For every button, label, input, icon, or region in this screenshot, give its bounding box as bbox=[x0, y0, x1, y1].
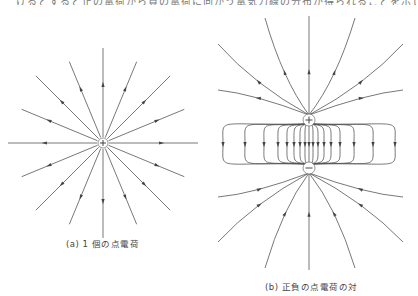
caption-a: (a) 1 個の点電荷 bbox=[66, 237, 139, 249]
field-line-diagram bbox=[0, 0, 418, 296]
single-charge-field bbox=[8, 48, 198, 238]
dipole-field bbox=[218, 16, 403, 270]
caption-b: (b) 正負の点電荷の対 bbox=[265, 280, 358, 292]
